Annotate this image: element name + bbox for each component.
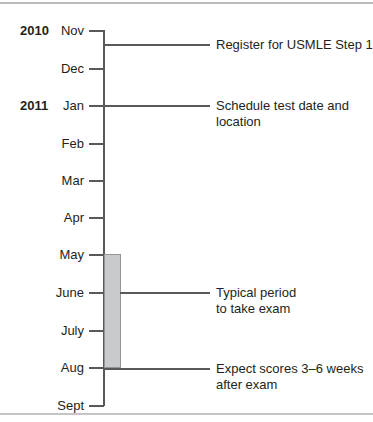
usmle-timeline-figure: NovDecJanFebMarAprMayJuneJulyAugSept 201…: [0, 0, 373, 422]
month-label-aug: Aug: [61, 361, 84, 374]
tick-mark-apr: [89, 217, 104, 219]
month-label-jan: Jan: [63, 99, 84, 112]
tick-mark-aug: [89, 367, 104, 369]
top-divider-rule: [0, 2, 373, 4]
tick-mark-july: [89, 330, 104, 332]
leader-line-2: [120, 292, 210, 294]
leader-line-0: [104, 44, 210, 46]
month-label-mar: Mar: [62, 174, 84, 187]
year-label-2011: 2011: [20, 99, 48, 112]
tick-mark-june: [89, 292, 104, 294]
annotation-text-1: Schedule test date and location: [216, 98, 349, 130]
tick-mark-may: [89, 254, 104, 256]
tick-mark-dec: [89, 68, 104, 70]
tick-mark-mar: [89, 180, 104, 182]
tick-mark-feb: [89, 143, 104, 145]
month-label-nov: Nov: [61, 24, 84, 37]
year-label-2010: 2010: [20, 24, 49, 37]
tick-mark-nov: [89, 30, 104, 32]
bottom-divider-rule: [0, 413, 373, 415]
leader-line-1: [104, 105, 210, 107]
tick-mark-sept: [89, 405, 104, 407]
annotation-text-3: Expect scores 3–6 weeks after exam: [216, 361, 363, 393]
month-label-feb: Feb: [62, 137, 84, 150]
month-label-apr: Apr: [64, 211, 84, 224]
month-label-may: May: [59, 248, 84, 261]
month-label-july: July: [61, 324, 84, 337]
tick-mark-jan: [89, 105, 104, 107]
annotation-text-2: Typical period to take exam: [216, 285, 296, 317]
annotation-text-0: Register for USMLE Step 1: [216, 37, 373, 53]
month-label-dec: Dec: [61, 62, 84, 75]
typical-exam-period-band: [104, 254, 121, 368]
leader-line-3: [104, 368, 210, 370]
month-label-sept: Sept: [57, 399, 84, 412]
month-label-june: June: [56, 286, 84, 299]
